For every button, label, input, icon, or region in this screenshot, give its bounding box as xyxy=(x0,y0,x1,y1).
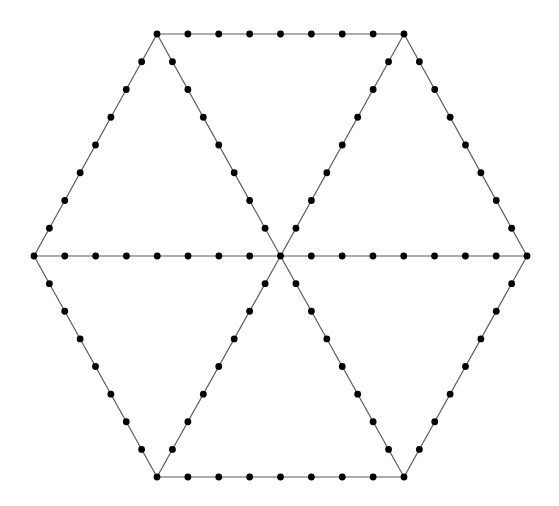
node-dot xyxy=(308,31,315,38)
node-dot xyxy=(308,474,315,481)
node-dot xyxy=(184,31,191,38)
node-dot xyxy=(339,253,346,260)
node-dot xyxy=(401,31,408,38)
node-dot xyxy=(354,114,361,121)
node-dot xyxy=(138,58,145,65)
node-dot xyxy=(370,253,377,260)
node-dot xyxy=(431,418,438,425)
node-dot xyxy=(61,308,68,315)
node-dot xyxy=(184,418,191,425)
node-dot xyxy=(477,169,484,176)
node-dot xyxy=(400,253,407,260)
node-dot xyxy=(107,114,114,121)
node-dot xyxy=(31,253,38,260)
node-dot xyxy=(154,31,161,38)
node-dot xyxy=(416,446,423,453)
node-dot xyxy=(215,474,222,481)
node-dot xyxy=(61,253,68,260)
node-dot xyxy=(477,335,484,342)
hexagon-diagram xyxy=(0,0,559,506)
node-dot xyxy=(462,142,469,149)
node-dot xyxy=(246,197,253,204)
node-dot xyxy=(61,197,68,204)
node-dot xyxy=(447,391,454,398)
node-dot xyxy=(185,253,192,260)
node-dot xyxy=(277,253,284,260)
node-dot xyxy=(231,335,238,342)
node-dot xyxy=(184,86,191,93)
node-dot xyxy=(246,253,253,260)
node-dot xyxy=(246,474,253,481)
node-dot xyxy=(123,253,130,260)
node-dot xyxy=(154,474,161,481)
node-dot xyxy=(339,363,346,370)
node-dot xyxy=(370,31,377,38)
node-dot xyxy=(524,253,531,260)
node-dot xyxy=(493,253,500,260)
node-dot xyxy=(493,197,500,204)
node-dot xyxy=(215,142,222,149)
node-dot xyxy=(308,197,315,204)
node-dot xyxy=(184,474,191,481)
node-dot xyxy=(277,474,284,481)
node-dot xyxy=(323,335,330,342)
node-dot xyxy=(508,280,515,287)
node-dot xyxy=(169,58,176,65)
node-dot xyxy=(308,253,315,260)
node-dot xyxy=(262,225,269,232)
node-dot xyxy=(92,253,99,260)
node-dot xyxy=(92,142,99,149)
node-dot xyxy=(246,308,253,315)
node-dot xyxy=(200,114,207,121)
node-dot xyxy=(339,142,346,149)
node-dot xyxy=(154,253,161,260)
node-dot xyxy=(123,86,130,93)
node-dot xyxy=(462,363,469,370)
node-dot xyxy=(508,225,515,232)
node-dot xyxy=(77,335,84,342)
node-dot xyxy=(447,114,454,121)
node-dot xyxy=(215,253,222,260)
node-dot xyxy=(354,391,361,398)
node-dot xyxy=(462,253,469,260)
node-dot xyxy=(169,446,176,453)
node-dot xyxy=(246,31,253,38)
node-dot xyxy=(431,253,438,260)
node-dot xyxy=(215,31,222,38)
node-dot xyxy=(370,474,377,481)
node-dot xyxy=(431,86,438,93)
node-dot xyxy=(123,418,130,425)
node-dot xyxy=(370,86,377,93)
node-dot xyxy=(215,363,222,370)
node-dot xyxy=(339,474,346,481)
node-dot xyxy=(107,391,114,398)
node-dot xyxy=(46,225,53,232)
node-dot xyxy=(262,280,269,287)
node-dot xyxy=(385,446,392,453)
node-dot xyxy=(401,474,408,481)
node-dot xyxy=(77,169,84,176)
node-dot xyxy=(416,58,423,65)
node-dot xyxy=(339,31,346,38)
node-dot xyxy=(293,280,300,287)
node-dot xyxy=(92,363,99,370)
node-dot xyxy=(323,169,330,176)
node-dot xyxy=(231,169,238,176)
node-dot xyxy=(308,308,315,315)
node-dot xyxy=(46,280,53,287)
node-dot xyxy=(138,446,145,453)
node-dot xyxy=(385,58,392,65)
node-dot xyxy=(370,418,377,425)
node-dot xyxy=(277,31,284,38)
node-dot xyxy=(200,391,207,398)
node-dot xyxy=(293,225,300,232)
node-dot xyxy=(493,308,500,315)
